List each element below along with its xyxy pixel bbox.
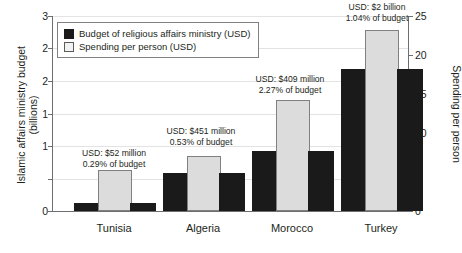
y-tick-left-1b [48, 114, 52, 115]
annotation-tunisia-line2: 0.29% of budget [63, 159, 165, 170]
annotation-morocco-line1: USD: $409 million [237, 74, 343, 85]
bar-algeria-spending [187, 156, 221, 211]
annotation-algeria-line2: 0.53% of budget [148, 137, 254, 148]
x-category-label-tunisia: Tunisia [64, 222, 164, 235]
y-tick-left-1 [48, 146, 52, 147]
annotation-morocco-line2: 2.27% of budget [237, 85, 343, 96]
y-tick-left-2b [48, 48, 52, 49]
y-ticklabel-left-2: 2 [8, 76, 48, 87]
bar-morocco-budget-left [252, 151, 278, 211]
annotation-tunisia: USD: $52 million 0.29% of budget [63, 148, 165, 169]
y-ticklabel-left-5: 0 [8, 206, 48, 217]
annotation-algeria-line1: USD: $451 million [148, 126, 254, 137]
y-tick-left-0b [48, 179, 52, 180]
legend-label-budget: Budget of religious affairs ministry (US… [79, 28, 250, 39]
bar-turkey-budget-left [341, 69, 367, 211]
bar-tunisia-budget-right [130, 203, 156, 211]
y-ticklabel-left-1: 2 [8, 43, 48, 54]
bar-tunisia-spending [98, 170, 132, 211]
y-tick-left-2 [48, 81, 52, 82]
bar-algeria-budget-left [163, 173, 189, 211]
x-category-label-morocco: Morocco [242, 222, 342, 235]
y-ticklabel-right-1: 20 [415, 50, 455, 61]
y-tick-right-20 [409, 55, 413, 56]
legend-item-budget: Budget of religious affairs ministry (US… [64, 27, 250, 40]
y-tick-right-0 [409, 211, 413, 212]
legend-item-spending: Spending per person (USD) [64, 40, 250, 53]
x-category-label-algeria: Algeria [153, 222, 253, 235]
chart-legend: Budget of religious affairs ministry (US… [57, 22, 259, 58]
annotation-turkey-line1: USD: $2 billion [327, 2, 427, 13]
annotation-turkey-line2: 1.04% of budget [327, 13, 427, 24]
bar-morocco-budget-right [308, 151, 334, 211]
chart-container: Islamic affairs ministry budget (billion… [0, 0, 462, 253]
x-category-label-turkey: Turkey [331, 222, 431, 235]
bar-turkey-budget-right [397, 69, 423, 211]
y-tick-left-0 [48, 211, 52, 212]
bar-algeria-budget-right [219, 173, 245, 211]
annotation-morocco: USD: $409 million 2.27% of budget [237, 74, 343, 95]
y-ticklabel-left-0: 3 [8, 11, 48, 22]
annotation-algeria: USD: $451 million 0.53% of budget [148, 126, 254, 147]
bar-morocco-spending [276, 100, 310, 211]
annotation-turkey: USD: $2 billion 1.04% of budget [327, 2, 427, 23]
x-axis-line [52, 211, 409, 212]
legend-swatch-spending-icon [64, 42, 74, 52]
y-ticklabel-left-4: 1 [8, 141, 48, 152]
bar-turkey-spending [365, 30, 399, 211]
bar-tunisia-budget-left [74, 203, 100, 211]
legend-swatch-budget-icon [64, 29, 74, 39]
annotation-tunisia-line1: USD: $52 million [63, 148, 165, 159]
y-tick-left-3 [48, 16, 52, 17]
y-ticklabel-left-3: 1 [8, 109, 48, 120]
legend-label-spending: Spending per person (USD) [79, 41, 196, 52]
